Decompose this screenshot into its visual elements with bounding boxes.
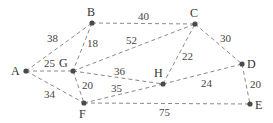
node-label: H [154, 66, 163, 80]
edge-weight-label: 36 [114, 65, 126, 77]
node-label: D [247, 57, 256, 71]
node-label: G [59, 56, 68, 70]
node-label: B [87, 5, 95, 19]
edge-weight-label: 35 [111, 82, 123, 94]
edge-F-E [84, 103, 250, 104]
node-E [247, 101, 252, 106]
edge-weight-label: 34 [44, 88, 56, 100]
edge-B-C [92, 23, 195, 24]
edge-weight-label: 20 [82, 79, 94, 91]
edge-weight-label: 75 [159, 106, 171, 118]
node-H [160, 81, 165, 86]
edge-F-H [84, 84, 163, 103]
edge-weight-label: 24 [201, 77, 213, 89]
edge-weight-label: 52 [126, 34, 137, 46]
edge-weight-label: 30 [220, 32, 232, 44]
edge-weight-label: 22 [182, 50, 193, 62]
node-label: C [190, 6, 198, 20]
edge-weight-label: 18 [87, 37, 99, 49]
node-F [81, 100, 86, 105]
node-label: A [11, 64, 20, 78]
edge-A-F [26, 71, 84, 103]
node-label: F [79, 107, 86, 121]
node-B [89, 20, 94, 25]
edge-weight-label: 20 [250, 78, 262, 90]
node-G [70, 68, 75, 73]
node-label: E [255, 98, 262, 112]
edge-C-D [195, 24, 242, 64]
edge-weight-label: 40 [138, 10, 150, 22]
node-C [192, 21, 197, 26]
node-D [239, 61, 244, 66]
edge-weight-label: 25 [44, 57, 56, 69]
edge-weight-label: 38 [47, 32, 59, 44]
weighted-graph: 3825341840523620352224302075 ABCDEFGH [0, 0, 273, 123]
node-A [23, 68, 28, 73]
